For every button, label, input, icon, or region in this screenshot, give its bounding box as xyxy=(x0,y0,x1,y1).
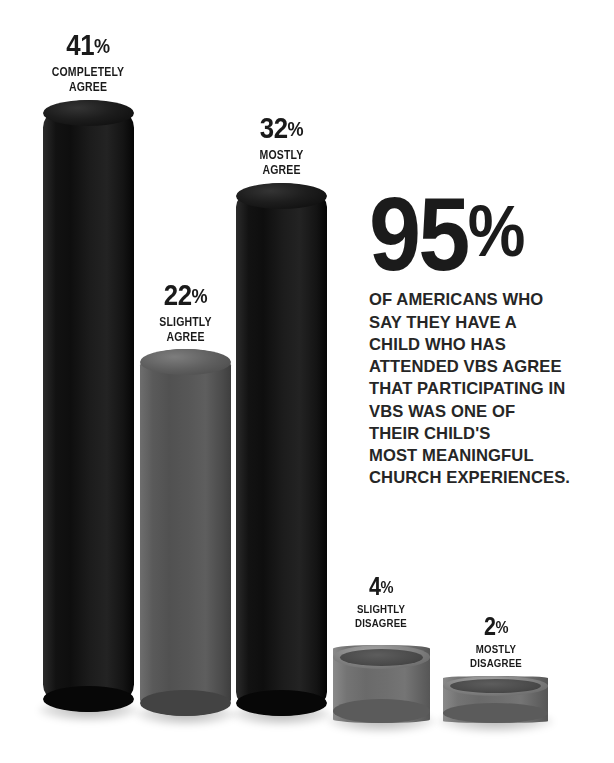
bar-body xyxy=(236,183,327,716)
callout-line: THEIR CHILD'S xyxy=(369,423,607,445)
bar-value-completely-agree: 41% xyxy=(41,30,136,60)
bar-body xyxy=(43,100,134,712)
infographic-canvas: 41% COMPLETELY AGREE 22% SLIGHTLY AGREE … xyxy=(0,0,614,763)
bar-value-mostly-disagree: 2% xyxy=(453,614,539,639)
bar-label-completely-agree: 41% COMPLETELY AGREE xyxy=(33,30,143,95)
bar-value-slightly-agree: 22% xyxy=(140,280,230,310)
bar-bottom-ellipse xyxy=(140,690,231,716)
bar-completely-agree xyxy=(43,100,134,712)
bar-mostly-disagree xyxy=(443,676,548,723)
bar-body xyxy=(140,349,231,716)
bar-top-ellipse xyxy=(236,183,327,209)
callout-body-text: OF AMERICANS WHO SAY THEY HAVE A CHILD W… xyxy=(369,289,607,489)
bar-slightly-disagree xyxy=(333,645,430,723)
callout-line: VBS WAS ONE OF xyxy=(369,401,607,423)
bar-label-slightly-disagree: 4% SLIGHTLY DISAGREE xyxy=(331,574,431,630)
bar-caption-mostly-agree: MOSTLY AGREE xyxy=(237,148,325,178)
bar-value-slightly-disagree: 4% xyxy=(338,574,424,599)
bar-bottom-ellipse xyxy=(236,690,327,716)
bar-top-ellipse xyxy=(140,349,231,375)
callout-line: ATTENDED VBS AGREE xyxy=(369,356,607,378)
bar-caption-completely-agree: COMPLETELY AGREE xyxy=(42,65,134,95)
bar-mostly-agree xyxy=(236,183,327,716)
bar-bottom-ellipse xyxy=(43,686,134,712)
callout-block: 95% OF AMERICANS WHO SAY THEY HAVE A CHI… xyxy=(369,190,607,490)
bar-label-mostly-disagree: 2% MOSTLY DISAGREE xyxy=(446,614,546,670)
bar-bottom-ellipse xyxy=(333,699,430,723)
bar-caption-mostly-disagree: MOSTLY DISAGREE xyxy=(454,643,538,670)
callout-line: CHILD WHO HAS xyxy=(369,334,607,356)
callout-line: MOST MEANINGFUL xyxy=(369,445,607,467)
bar-top-ellipse xyxy=(43,100,134,126)
callout-line: OF AMERICANS WHO xyxy=(369,289,607,311)
headline-percentage: 95% xyxy=(369,190,583,279)
bar-inner-rim xyxy=(340,649,423,666)
bar-value-mostly-agree: 32% xyxy=(236,113,326,143)
callout-line: SAY THEY HAVE A xyxy=(369,312,607,334)
bar-slightly-agree xyxy=(140,349,231,716)
bar-bottom-ellipse xyxy=(443,703,548,723)
bar-label-mostly-agree: 32% MOSTLY AGREE xyxy=(229,113,334,178)
bar-label-slightly-agree: 22% SLIGHTLY AGREE xyxy=(133,280,238,345)
bar-caption-slightly-agree: SLIGHTLY AGREE xyxy=(141,315,229,345)
bar-caption-slightly-disagree: SLIGHTLY DISAGREE xyxy=(339,603,423,630)
callout-line: THAT PARTICIPATING IN xyxy=(369,378,607,400)
bar-inner-rim xyxy=(450,679,541,693)
callout-line: CHURCH EXPERIENCES. xyxy=(369,467,607,489)
